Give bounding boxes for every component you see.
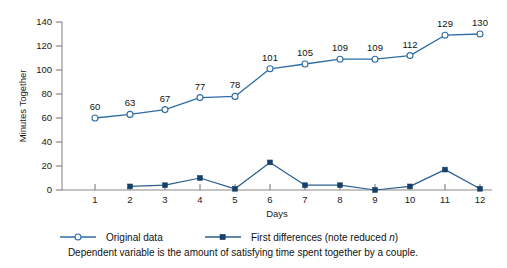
- data-point-marker: [407, 53, 413, 59]
- chart-legend: Original data First differences (note re…: [60, 232, 398, 243]
- legend-label-difference: First differences (note reduced n): [251, 232, 398, 243]
- y-tick-label: 40: [41, 136, 52, 147]
- data-point-marker: [372, 56, 378, 62]
- series-original-polyline: [95, 34, 480, 118]
- data-point-label: 105: [297, 47, 313, 58]
- data-point-label: 130: [472, 17, 488, 28]
- x-tick-label: 10: [405, 194, 416, 205]
- data-point-marker: [127, 111, 133, 117]
- x-tick-label: 2: [127, 194, 132, 205]
- line-chart: 0 20 40 60 80 100 120 140 Minutes Togeth…: [0, 0, 507, 268]
- x-tick-label: 6: [267, 194, 272, 205]
- x-tick-label: 4: [197, 194, 202, 205]
- series-first-differences: [128, 160, 483, 192]
- x-axis-ticks: 1 2 3 4 5 6 7 8 9 10 11 12: [92, 184, 485, 205]
- data-point-label: 63: [125, 97, 136, 108]
- data-point-marker: [303, 183, 308, 188]
- data-point-marker: [373, 188, 378, 193]
- x-tick-label: 11: [440, 194, 450, 205]
- data-point-marker: [267, 66, 273, 72]
- y-tick-label: 60: [41, 112, 52, 123]
- data-point-label: 109: [332, 42, 348, 53]
- y-tick-label: 0: [47, 184, 52, 195]
- data-point-marker: [163, 183, 168, 188]
- data-point-marker: [408, 184, 413, 189]
- data-point-label: 60: [90, 101, 101, 112]
- y-axis-title: Minutes Together: [17, 70, 28, 143]
- data-point-marker: [197, 95, 203, 101]
- legend-label-original: Original data: [106, 232, 163, 243]
- data-point-marker: [233, 186, 238, 191]
- series-original-data: [92, 31, 483, 121]
- data-point-label: 77: [195, 81, 206, 92]
- data-point-label: 101: [262, 52, 278, 63]
- data-point-marker: [162, 107, 168, 113]
- y-tick-label: 140: [36, 16, 52, 27]
- x-tick-label: 9: [372, 194, 377, 205]
- x-tick-label: 7: [302, 194, 307, 205]
- x-tick-label: 5: [232, 194, 237, 205]
- data-point-marker: [128, 184, 133, 189]
- x-axis-title: Days: [266, 208, 288, 219]
- figure-container: 0 20 40 60 80 100 120 140 Minutes Togeth…: [0, 0, 507, 268]
- x-tick-label: 1: [92, 194, 97, 205]
- y-axis-ticks: 0 20 40 60 80 100 120 140: [36, 16, 62, 195]
- data-point-marker: [478, 186, 483, 191]
- legend-marker-open-circle: [75, 234, 81, 240]
- data-point-marker: [92, 115, 98, 121]
- data-point-marker: [198, 176, 203, 181]
- data-point-labels: 6063677778101105109109112129130: [90, 17, 488, 112]
- data-point-label: 129: [437, 18, 453, 29]
- x-tick-label: 12: [475, 194, 486, 205]
- x-tick-label: 8: [337, 194, 342, 205]
- data-point-marker: [477, 31, 483, 37]
- data-point-label: 78: [230, 79, 241, 90]
- data-point-label: 67: [160, 93, 171, 104]
- legend-marker-filled-square: [220, 234, 225, 239]
- data-point-marker: [442, 32, 448, 38]
- data-point-label: 109: [367, 42, 383, 53]
- y-tick-label: 100: [36, 64, 52, 75]
- data-point-marker: [337, 56, 343, 62]
- data-point-marker: [443, 167, 448, 172]
- data-point-marker: [268, 160, 273, 165]
- y-tick-label: 120: [36, 40, 52, 51]
- y-tick-label: 20: [41, 160, 52, 171]
- data-point-marker: [302, 61, 308, 67]
- figure-caption: Dependent variable is the amount of sati…: [68, 247, 418, 258]
- y-tick-label: 80: [41, 88, 52, 99]
- data-point-marker: [338, 183, 343, 188]
- data-point-label: 112: [402, 39, 417, 50]
- data-point-marker: [232, 93, 238, 99]
- x-tick-label: 3: [162, 194, 167, 205]
